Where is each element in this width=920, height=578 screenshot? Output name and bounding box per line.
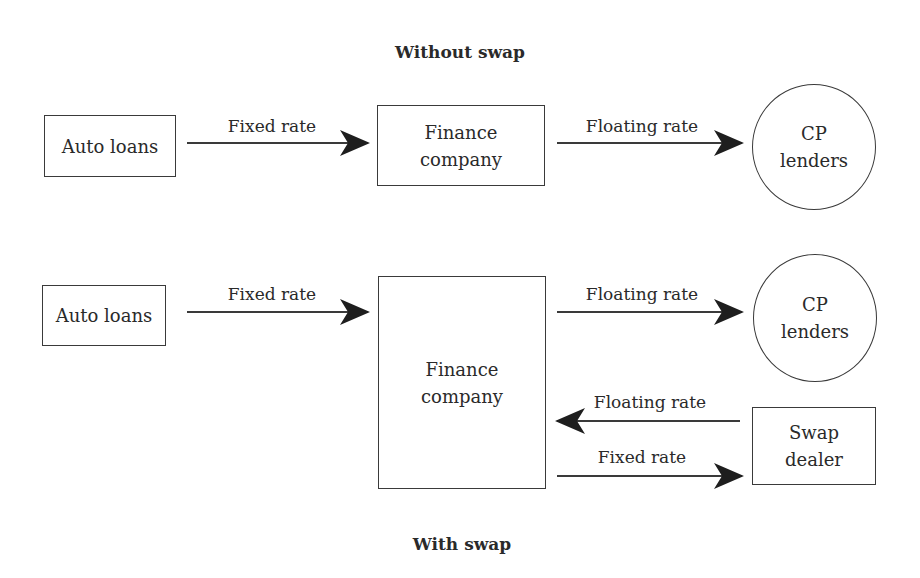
node-cp-lenders-top: CP lenders [752,84,876,210]
label-floating-rate-to-cp: Floating rate [557,284,727,304]
node-auto-loans-top: Auto loans [44,115,176,177]
label-floating-rate-top: Floating rate [557,116,727,136]
label-floating-rate-from-swap: Floating rate [565,392,735,412]
title-with-swap: With swap [312,534,612,554]
title-without-swap: Without swap [310,42,610,62]
node-auto-loans-bottom: Auto loans [42,285,166,346]
node-swap-dealer: Swap dealer [752,407,876,485]
node-cp-lenders-bottom: CP lenders [753,254,877,382]
node-finance-company-top: Finance company [377,105,545,186]
label-fixed-rate-bottom: Fixed rate [187,284,357,304]
label-fixed-rate-to-swap: Fixed rate [557,447,727,467]
label-fixed-rate-top: Fixed rate [187,116,357,136]
node-finance-company-bottom: Finance company [378,276,546,489]
